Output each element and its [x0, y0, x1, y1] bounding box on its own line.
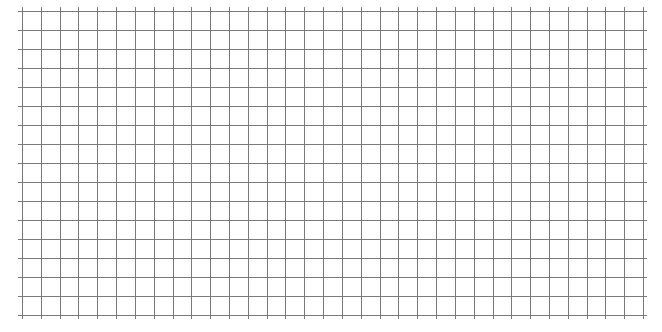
grid-lines: [0, 0, 662, 332]
